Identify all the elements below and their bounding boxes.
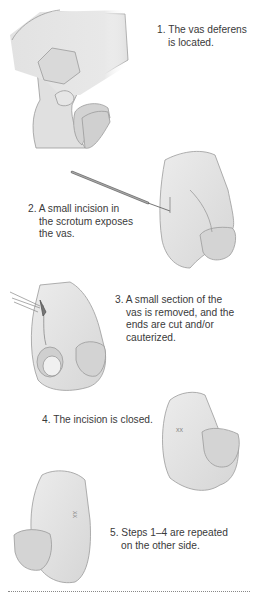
step1-illustration: [10, 10, 128, 148]
step-3-caption: 3. A small section of the vas is removed…: [115, 294, 234, 344]
step-5-caption: 5. Steps 1–4 are repeated on the other s…: [110, 527, 228, 552]
step-2-caption: 2. A small incision in the scrotum expos…: [28, 203, 133, 241]
dotted-divider: [8, 591, 250, 592]
step3-illustration: [10, 282, 106, 390]
step-1-caption: 1. The vas deferens is located.: [157, 24, 247, 49]
step-4-caption: 4. The incision is closed.: [42, 414, 153, 427]
step5-illustration: xx: [14, 471, 90, 583]
svg-text:xx: xx: [72, 511, 79, 519]
svg-text:xx: xx: [176, 426, 184, 433]
step4-illustration: xx: [163, 392, 240, 490]
